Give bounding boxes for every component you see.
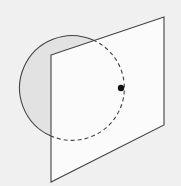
diagram-canvas bbox=[0, 0, 181, 186]
intersection-point bbox=[118, 85, 124, 91]
